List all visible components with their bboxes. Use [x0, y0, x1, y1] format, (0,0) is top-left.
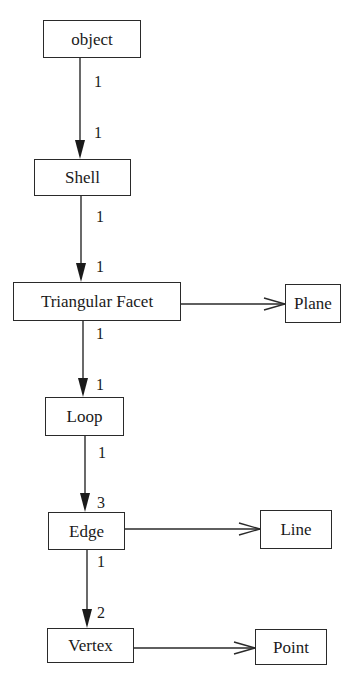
multiplicity-edge-vertex-target: 2 — [97, 605, 105, 621]
node-line: Line — [260, 510, 332, 549]
multiplicity-shell-facet-source: 1 — [96, 209, 104, 225]
arrow-vertex-to-point — [134, 642, 255, 654]
node-object: object — [43, 20, 141, 58]
multiplicity-edge-vertex-source: 1 — [97, 554, 105, 570]
node-edge: Edge — [48, 512, 125, 550]
multiplicity-object-shell-source: 1 — [94, 74, 102, 90]
node-triangular-facet-label: Triangular Facet — [41, 293, 153, 310]
node-line-label: Line — [280, 521, 311, 538]
node-object-label: object — [71, 31, 113, 48]
node-shell: Shell — [34, 159, 131, 196]
connector-layer — [0, 0, 359, 679]
arrow-facet-to-plane — [181, 298, 285, 310]
arrow-edge-to-vertex — [82, 550, 92, 628]
multiplicity-loop-edge-source: 1 — [98, 445, 106, 461]
multiplicity-loop-edge-target: 3 — [97, 495, 105, 511]
node-point-label: Point — [273, 639, 309, 656]
node-plane-label: Plane — [294, 295, 332, 312]
node-point: Point — [255, 629, 327, 665]
arrow-loop-to-edge — [80, 436, 90, 512]
node-vertex: Vertex — [47, 628, 134, 663]
node-vertex-label: Vertex — [68, 637, 112, 654]
multiplicity-object-shell-target: 1 — [94, 125, 102, 141]
arrow-edge-to-line — [125, 523, 260, 535]
multiplicity-facet-loop-target: 1 — [96, 377, 104, 393]
node-loop-label: Loop — [67, 408, 103, 425]
diagram-canvas: object Shell Triangular Facet Plane Loop… — [0, 0, 359, 679]
multiplicity-shell-facet-target: 1 — [96, 259, 104, 275]
multiplicity-facet-loop-source: 1 — [96, 326, 104, 342]
node-triangular-facet: Triangular Facet — [13, 282, 181, 321]
node-loop: Loop — [45, 397, 124, 436]
arrow-object-to-shell — [75, 58, 85, 159]
arrow-facet-to-loop — [78, 321, 88, 397]
arrow-shell-to-facet — [76, 196, 86, 282]
node-plane: Plane — [285, 284, 341, 323]
node-shell-label: Shell — [65, 169, 100, 186]
node-edge-label: Edge — [69, 523, 104, 540]
